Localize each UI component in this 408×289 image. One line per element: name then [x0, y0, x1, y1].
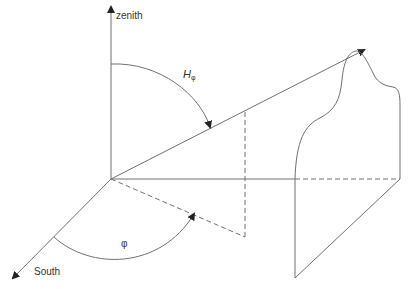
distribution-curve: [295, 51, 400, 278]
zenith-label: zenith: [116, 10, 143, 21]
h-subscript: φ: [191, 74, 196, 81]
south-label: South: [34, 266, 60, 277]
azimuth-angle-arc: [54, 214, 194, 259]
h-symbol: H: [183, 68, 191, 80]
lower-diagonal: [295, 179, 400, 278]
h-phi-label: Hφ: [183, 68, 196, 81]
south-axis: [13, 179, 111, 278]
phi-label: φ: [121, 238, 127, 249]
diagram-canvas: [0, 0, 408, 289]
ground-projection-dashed: [111, 179, 245, 237]
